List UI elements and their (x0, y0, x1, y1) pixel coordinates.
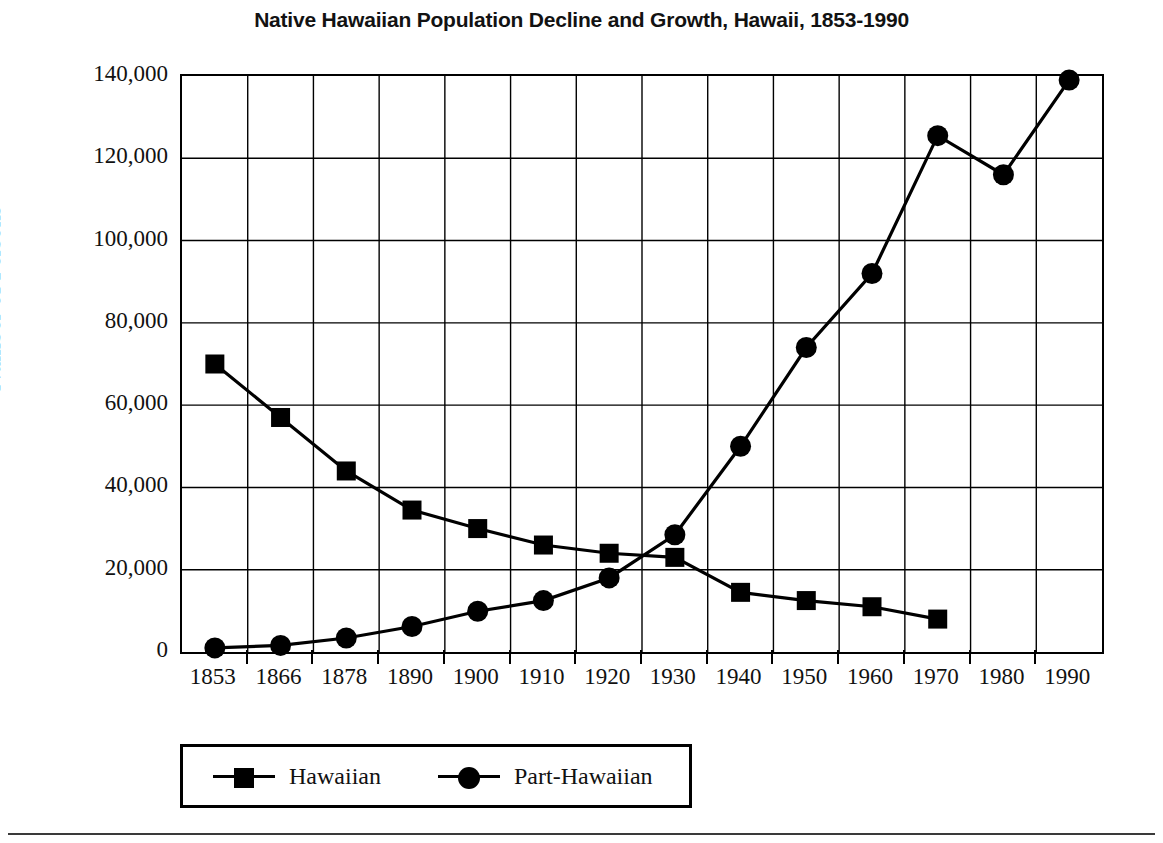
legend-label-hawaiian: Hawaiian (289, 763, 381, 790)
series-line-hawaiian (215, 364, 938, 619)
x-tick-mark (443, 650, 445, 664)
data-point-marker (862, 263, 883, 284)
y-tick-label: 140,000 (48, 62, 168, 85)
x-tick-mark (574, 650, 576, 664)
data-point-marker (863, 597, 882, 616)
y-tick-label: 20,000 (48, 556, 168, 579)
data-point-marker (533, 590, 554, 611)
legend-label-part-hawaiian: Part-Hawaiian (514, 763, 653, 790)
data-point-marker (730, 436, 751, 457)
x-tick-mark (969, 650, 971, 664)
x-tick-mark (377, 650, 379, 664)
data-point-marker (534, 536, 553, 555)
chart-legend: Hawaiian Part-Hawaiian (180, 744, 692, 808)
y-axis-title: Number of Persons (0, 149, 6, 449)
legend-entry-hawaiian: Hawaiian (213, 747, 381, 805)
legend-marker-circle-icon (438, 762, 500, 790)
series-line-part-hawaiian (215, 80, 1069, 648)
x-tick-mark (903, 650, 905, 664)
x-tick-mark (509, 650, 511, 664)
bottom-divider (8, 833, 1155, 835)
legend-marker-square-icon (213, 762, 275, 790)
data-point-marker (796, 337, 817, 358)
y-tick-label: 0 (48, 638, 168, 661)
x-tick-mark (640, 650, 642, 664)
data-point-marker (468, 519, 487, 538)
data-point-marker (928, 610, 947, 629)
data-point-marker (467, 601, 488, 622)
chart-title: Native Hawaiian Population Decline and G… (0, 8, 1163, 32)
x-tick-mark (311, 650, 313, 664)
y-tick-label: 40,000 (48, 473, 168, 496)
x-axis-tick-labels: 1853186618781890190019101920193019401950… (180, 664, 1100, 704)
x-tick-label: 1990 (1027, 664, 1107, 690)
x-tick-mark (246, 650, 248, 664)
data-point-marker (337, 461, 356, 480)
x-tick-mark (706, 650, 708, 664)
data-point-marker (402, 616, 423, 637)
data-point-marker (270, 635, 291, 656)
data-point-marker (271, 408, 290, 427)
data-point-marker (1059, 70, 1080, 91)
x-tick-mark (1034, 650, 1036, 664)
data-point-marker (403, 501, 422, 520)
data-point-marker (731, 583, 750, 602)
chart-page: Native Hawaiian Population Decline and G… (0, 0, 1163, 843)
y-axis-tick-labels: 020,00040,00060,00080,000100,000120,0001… (40, 74, 168, 650)
y-tick-label: 80,000 (48, 309, 168, 332)
data-point-marker (927, 125, 948, 146)
data-point-marker (205, 355, 224, 374)
data-point-marker (600, 544, 619, 563)
x-tick-mark (837, 650, 839, 664)
data-point-marker (664, 524, 685, 545)
legend-entry-part-hawaiian: Part-Hawaiian (438, 747, 653, 805)
data-series-layer (182, 76, 1102, 652)
x-tick-mark (771, 650, 773, 664)
data-point-marker (204, 637, 225, 658)
data-point-marker (336, 628, 357, 649)
y-tick-label: 120,000 (48, 144, 168, 167)
data-point-marker (993, 164, 1014, 185)
plot-area (180, 74, 1104, 654)
y-tick-label: 60,000 (48, 391, 168, 414)
y-tick-label: 100,000 (48, 227, 168, 250)
data-point-marker (599, 567, 620, 588)
data-point-marker (665, 548, 684, 567)
data-point-marker (797, 591, 816, 610)
